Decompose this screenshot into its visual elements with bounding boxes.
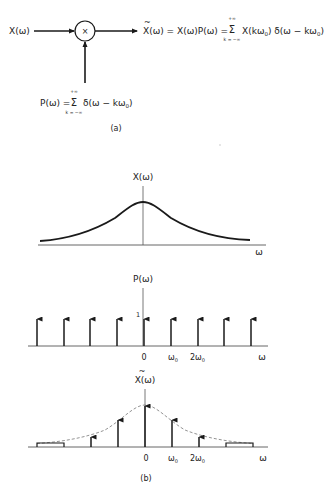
p-equation: P(ω) = +∞ Σ k = −∞ δ(ω − kω0)	[40, 89, 133, 115]
plot-p-omega: P(ω) 1 0 ω0 2ω0 ω	[28, 274, 268, 363]
plot1-ylabel: X(ω)	[133, 172, 154, 182]
impulse-small-pair	[37, 443, 64, 447]
multiply-icon: ×	[82, 27, 89, 36]
block-diagram: X(ω) × ~ X(ω) = X(ω)P(ω) = +∞ Σ k = −∞ X…	[9, 16, 324, 133]
p-sum-lower: k = −∞	[66, 110, 83, 115]
plot2-tick-0: 0	[141, 353, 146, 362]
plot-sampled-x-omega: ~ X(ω) 0 ω0 2ω0 ω	[28, 367, 268, 464]
plot3-ylabel: X(ω)	[135, 375, 156, 385]
plot-x-omega: X(ω) ω	[38, 172, 266, 257]
impulse-small-pair	[226, 443, 253, 447]
input-label: X(ω)	[9, 26, 30, 36]
sum-upper: +∞	[228, 16, 236, 21]
plot2-unit-label: 1	[136, 311, 140, 319]
plot2-tick-2omega0: 2ω0	[190, 353, 205, 363]
impulse-train	[37, 319, 251, 346]
caption-a: (a)	[110, 124, 121, 133]
p-equation-lhs: P(ω) =	[40, 98, 70, 108]
sum-lower: k = −∞	[224, 37, 241, 42]
output-equation: ~ X(ω) = X(ω)P(ω) = +∞ Σ k = −∞ X(kω0) δ…	[143, 16, 324, 42]
p-sum-icon: Σ	[71, 97, 77, 108]
plot2-ylabel: P(ω)	[133, 274, 153, 284]
plot3-tick-2omega0: 2ω0	[190, 454, 205, 464]
sum-icon: Σ	[229, 24, 235, 35]
plot2-tick-omega0: ω0	[168, 353, 178, 363]
figure: X(ω) × ~ X(ω) = X(ω)P(ω) = +∞ Σ k = −∞ X…	[0, 0, 333, 496]
output-equation-rhs: X(kω0) δ(ω − kω0)	[242, 26, 324, 37]
plot1-xlabel: ω	[255, 247, 263, 257]
plot1-curve	[40, 202, 250, 241]
plot3-tick-0: 0	[143, 454, 148, 463]
plot3-tick-omega0: ω0	[168, 454, 178, 464]
scan-speck	[219, 144, 220, 145]
plot3-xlabel: ω	[259, 453, 267, 463]
sampled-impulses	[37, 406, 253, 447]
p-equation-rhs: δ(ω − kω0)	[83, 98, 133, 109]
output-equation-lhs: X(ω) = X(ω)P(ω) =	[143, 26, 228, 36]
plot2-xlabel: ω	[258, 352, 266, 362]
caption-b: (b)	[140, 474, 151, 483]
p-sum-upper: +∞	[70, 89, 78, 94]
